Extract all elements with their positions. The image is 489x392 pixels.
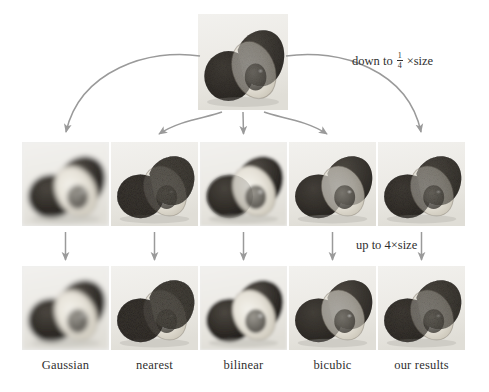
caption-gaussian: Gaussian <box>22 358 109 373</box>
fraction-denominator: 4 <box>397 62 403 70</box>
arrow-source-to-bicubic <box>264 112 327 134</box>
tile-downsampled-our-results <box>378 142 465 226</box>
downscale-fraction: 1 4 <box>397 52 403 71</box>
annotation-upscale: up to 4×size <box>356 238 417 253</box>
downscale-suffix: ×size <box>407 54 433 69</box>
upscale-text: up to 4×size <box>356 238 417 253</box>
tile-downsampled-bicubic <box>289 142 376 226</box>
figure-root: Gaussian nearest bilinear bicubic our re… <box>0 0 489 392</box>
tile-upsampled-our-results <box>378 266 465 350</box>
fraction-numerator: 1 <box>397 52 403 60</box>
tile-downsampled-bilinear <box>200 142 287 226</box>
tile-upsampled-gaussian <box>22 266 109 350</box>
tile-downsampled-gaussian <box>22 142 109 226</box>
tile-upsampled-bicubic <box>289 266 376 350</box>
arrow-source-to-bilinear <box>243 112 244 134</box>
arrow-source-to-gaussian <box>66 54 200 132</box>
caption-bicubic: bicubic <box>289 358 376 373</box>
caption-our-results: our results <box>378 358 465 373</box>
source-image <box>198 14 288 110</box>
caption-bilinear: bilinear <box>200 358 287 373</box>
annotation-downscale: down to 1 4 ×size <box>352 52 433 71</box>
downscale-prefix: down to <box>352 54 393 69</box>
tile-downsampled-nearest <box>111 142 198 226</box>
tile-upsampled-nearest <box>111 266 198 350</box>
tile-upsampled-bilinear <box>200 266 287 350</box>
arrow-source-to-nearest <box>159 112 222 134</box>
caption-nearest: nearest <box>111 358 198 373</box>
